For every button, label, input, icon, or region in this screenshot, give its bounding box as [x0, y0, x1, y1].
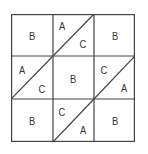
- cell-r1c2-top-left-label: C: [101, 65, 108, 76]
- cell-r2c1-top-left-label: C: [59, 107, 66, 118]
- cell-r0c2-label: B: [112, 31, 118, 42]
- cell-r0c1-top-left-label: A: [59, 21, 65, 32]
- cell-r0c0-label: B: [29, 31, 35, 42]
- cell-r1c2-bottom-right-label: A: [121, 83, 127, 94]
- cell-r2c2-label: B: [112, 116, 118, 127]
- diagonal-r1c2: [94, 56, 135, 99]
- cell-r1c1-label: B: [70, 74, 76, 85]
- triangle-grid-diagram: B A C B A C B C A B C A B: [11, 14, 135, 142]
- diagonal-r1c0: [11, 56, 53, 99]
- cell-r1c0-top-left-label: A: [19, 65, 25, 76]
- cell-r0c1-bottom-right-label: C: [80, 39, 87, 50]
- cell-r2c0-label: B: [29, 116, 35, 127]
- cell-r1c0-bottom-right-label: C: [39, 84, 46, 95]
- cell-r2c1-bottom-right-label: A: [80, 125, 86, 136]
